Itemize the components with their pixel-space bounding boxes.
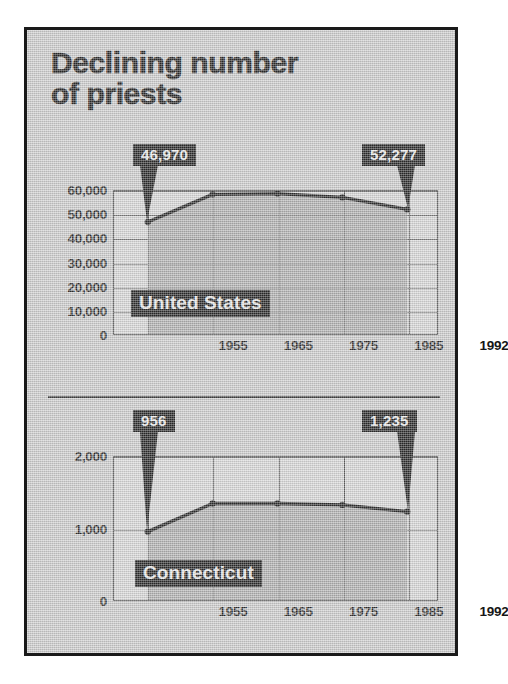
plot-area-united-states: United States 46,97052,277 (113, 190, 438, 335)
x-axis-tick-label: 1975 (349, 338, 378, 353)
page-title: Declining number of priests (51, 47, 381, 109)
section-divider (48, 396, 440, 398)
x-axis-tick-label: 1975 (349, 604, 378, 619)
page-title-line-2: of priests (51, 78, 381, 109)
y-axis-tick-label: 2,000 (75, 449, 107, 464)
y-axis-tick-label: 60,000 (68, 183, 108, 198)
page-title-line-1: Declining number (51, 47, 381, 78)
callout-pointer (113, 144, 438, 335)
y-axis-united-states: 010,00020,00030,00040,00050,00060,000 (27, 190, 107, 335)
plot-area-connecticut: Connecticut 9561,235 (113, 456, 438, 601)
x-axis-tick-label: 1992 (480, 338, 508, 353)
x-axis-tick-label: 1955 (219, 604, 248, 619)
x-axis-tick-label: 1985 (414, 604, 443, 619)
y-axis-tick-label: 40,000 (68, 231, 108, 246)
y-axis-connecticut: 01,0002,000 (27, 456, 107, 601)
x-axis-tick-label: 1965 (284, 338, 313, 353)
x-axis-tick-label: 1955 (219, 338, 248, 353)
y-axis-tick-label: 50,000 (68, 207, 108, 222)
data-callout-label: 1,235 (362, 410, 417, 432)
infographic-frame: Declining number of priests 010,00020,00… (24, 27, 458, 656)
callout-pointer (113, 410, 438, 601)
x-axis-tick-label: 1992 (480, 604, 508, 619)
x-axis-connecticut: 19551965197519851992 (113, 604, 438, 626)
y-axis-tick-label: 0 (100, 328, 107, 343)
y-axis-tick-label: 0 (100, 594, 107, 609)
data-callout-label: 956 (133, 410, 175, 432)
y-axis-tick-label: 1,000 (75, 521, 107, 536)
data-callout-label: 52,277 (362, 144, 425, 166)
data-callout-label: 46,970 (133, 144, 196, 166)
y-axis-tick-label: 20,000 (68, 279, 108, 294)
y-axis-tick-label: 30,000 (68, 255, 108, 270)
x-axis-united-states: 19551965197519851992 (113, 338, 438, 360)
x-axis-tick-label: 1965 (284, 604, 313, 619)
x-axis-tick-label: 1985 (414, 338, 443, 353)
y-axis-tick-label: 10,000 (68, 303, 108, 318)
